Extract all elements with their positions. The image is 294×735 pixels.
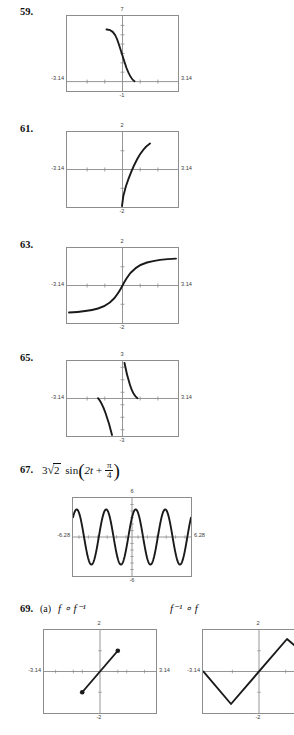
screen-67-plot bbox=[73, 498, 191, 576]
screen-69a-plot bbox=[44, 630, 156, 713]
problem-67-expression: 3√2 sin(2t + π4) bbox=[42, 460, 120, 482]
screen-69a-xmin-label: -3.14 bbox=[8, 668, 41, 674]
problem-69-expr-left: f ∘ f⁻¹ bbox=[58, 602, 86, 615]
screen-69a-ymin-label: -2 bbox=[97, 715, 102, 721]
screen-63-xmin-label: -3.14 bbox=[31, 282, 64, 288]
screen-61-xmax-label: 3.14 bbox=[181, 166, 192, 172]
screen-61-plot bbox=[67, 132, 178, 207]
problem-number-65: 65. bbox=[20, 352, 33, 363]
screen-67-xmin-label: -6.28 bbox=[36, 533, 70, 539]
screen-63-ymax-label: 2 bbox=[120, 239, 123, 245]
expr-fraction: π4 bbox=[105, 461, 114, 480]
screen-65-plot bbox=[67, 361, 178, 436]
expr-inner-left: 2t bbox=[85, 464, 94, 476]
screen-63-xmax-label: 3.14 bbox=[181, 282, 192, 288]
problem-69-expr-right: f⁻¹ ∘ f bbox=[170, 602, 198, 615]
screen-61 bbox=[66, 131, 179, 208]
screen-63-plot bbox=[67, 248, 178, 323]
problem-number-59: 59. bbox=[20, 6, 33, 17]
screen-59-ymax-label: 7 bbox=[120, 7, 123, 13]
screen-65-ymax-label: 3 bbox=[120, 352, 123, 358]
screen-59 bbox=[66, 15, 179, 92]
endpoint-dot-upper bbox=[116, 648, 121, 653]
endpoint-dot-lower bbox=[80, 690, 85, 695]
screen-67-ymin-label: -6 bbox=[130, 578, 135, 584]
screen-61-xmin-label: -3.14 bbox=[31, 166, 64, 172]
problem-number-61: 61. bbox=[20, 123, 33, 134]
screen-67-ymax-label: 6 bbox=[130, 489, 133, 495]
problem-number-67: 67. bbox=[20, 464, 33, 475]
expr-operator: + bbox=[96, 464, 102, 476]
fraction-numerator: π bbox=[105, 461, 114, 470]
screen-63 bbox=[66, 247, 179, 324]
screen-69b-ymax-label: 2 bbox=[256, 621, 259, 627]
expr-radicand: 2 bbox=[53, 463, 61, 476]
screen-59-xmax-label: 3.14 bbox=[181, 76, 192, 82]
screen-61-ymax-label: 2 bbox=[120, 123, 123, 129]
problem-number-63: 63. bbox=[20, 239, 33, 250]
screen-69b-plot bbox=[203, 630, 294, 713]
screen-59-ymin-label: -1 bbox=[120, 93, 125, 99]
screen-65-xmax-label: 3.14 bbox=[181, 395, 192, 401]
screen-65-xmin-label: -3.14 bbox=[31, 395, 64, 401]
screen-69b-xmin-label: -3.14 bbox=[167, 668, 200, 674]
screen-67-xmax-label: 6.28 bbox=[194, 533, 205, 539]
expr-function: sin bbox=[65, 464, 78, 476]
screen-69a bbox=[43, 629, 157, 714]
paren-open: ( bbox=[78, 460, 84, 482]
problem-69-part-label: (a) bbox=[40, 603, 51, 614]
problem-number-69: 69. bbox=[20, 603, 33, 614]
answer-key-page: 59. bbox=[0, 0, 294, 735]
screen-69b bbox=[202, 629, 294, 714]
screen-59-xmin-label: -3.14 bbox=[31, 76, 64, 82]
screen-69a-ymax-label: 2 bbox=[97, 621, 100, 627]
screen-69b-ymin-label: -2 bbox=[256, 715, 261, 721]
screen-65-ymin-label: -3 bbox=[120, 438, 125, 444]
screen-61-ymin-label: -2 bbox=[120, 209, 125, 215]
screen-65 bbox=[66, 360, 179, 437]
screen-63-ymin-label: -2 bbox=[120, 325, 125, 331]
screen-59-plot bbox=[67, 16, 178, 91]
fraction-denominator: 4 bbox=[105, 470, 114, 480]
paren-close: ) bbox=[113, 460, 119, 482]
screen-67 bbox=[72, 497, 192, 577]
